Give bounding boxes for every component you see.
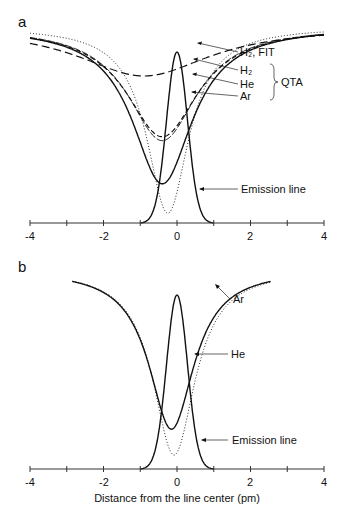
panel-b-arrowheads [194,284,220,442]
panel-a-tick-label: 2 [247,230,253,242]
panel-b-tick-label: -2 [99,476,109,488]
arrowhead-icon [191,91,196,95]
panel-a-tick-label: 0 [174,230,180,242]
panel-b-letter: b [18,258,26,275]
label-emission-line: Emission line [241,183,306,195]
panel-b-annotations [195,285,230,440]
series-ar [30,35,324,184]
arrowhead-icon [197,42,202,46]
panel-a: a -4 -2 0 2 4 H₂, FIT H₂ He Ar QTA [18,13,327,242]
leader-he [193,74,238,84]
panel-b-tick-label: -4 [25,476,35,488]
panel-a-tick-label: -4 [25,230,35,242]
leader-h2fit [198,43,238,52]
series-emission-line [140,295,214,469]
x-axis-title: Distance from the line center (pm) [94,492,260,504]
label-ar: Ar [240,90,251,102]
label-ar: Ar [233,293,244,305]
arrowhead-icon [193,58,198,62]
leader-ar [192,92,238,96]
panel-a-letter: a [18,13,27,30]
panel-a-annotations [192,43,278,189]
panel-b-tick-label: 0 [174,476,180,488]
panel-a-tick-label: -2 [99,230,109,242]
label-he: He [231,348,245,360]
panel-b-tick-label: 2 [247,476,253,488]
arrowhead-icon [199,187,204,191]
series-emission-line [140,52,214,223]
label-he: He [240,78,254,90]
panel-b: b -4 -2 0 2 4 Distance from the line cen… [18,258,327,504]
panel-b-tick-label: 4 [321,476,327,488]
label-h2: H₂ [240,64,252,76]
panel-a-tick-label: 4 [321,230,327,242]
label-emission-line: Emission line [232,434,297,446]
label-qta: QTA [281,76,303,88]
qta-brace-icon [270,64,278,100]
figure: a -4 -2 0 2 4 H₂, FIT H₂ He Ar QTA [0,0,349,515]
arrowhead-icon [192,73,197,77]
arrowhead-icon [201,438,206,442]
label-h2-fit: H₂, FIT [240,46,275,58]
